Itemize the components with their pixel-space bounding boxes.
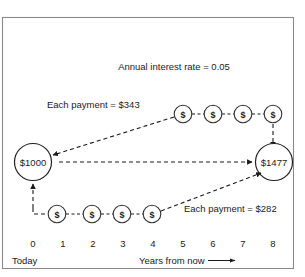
payment-symbol: $ [89,210,94,220]
axis-tick-0: 0 [30,238,35,249]
lower-payment-node-year-3: $ [113,205,131,223]
payment-symbol: $ [210,110,215,120]
payment-symbol: $ [240,110,245,120]
axis-tick-3: 3 [120,238,125,249]
lower-payment-label: Each payment = $282 [184,203,277,214]
axis-tick-2: 2 [90,238,95,249]
payment-symbol: $ [149,210,154,220]
future-value-node: $1477 [256,144,293,181]
upper-payment-node-year-7: $ [234,105,252,123]
lower-payment-node-year-1: $ [48,205,66,223]
upper-payment-node-year-6: $ [204,105,222,123]
interest-rate-note: Annual interest rate = 0.05 [118,61,230,72]
upper-payment-label: Each payment = $343 [47,99,140,110]
upper-payment-node-year-8: $ [264,105,282,123]
future-value-label: $1477 [261,157,287,168]
lower-payment-node-year-2: $ [83,205,101,223]
payment-symbol: $ [54,210,59,220]
axis-tick-4: 4 [150,238,155,249]
figure-border [3,18,294,269]
payment-symbol: $ [119,210,124,220]
axis-tick-6: 6 [210,238,215,249]
payment-symbol: $ [180,110,185,120]
axis-label: Years from now [139,255,205,266]
axis-tick-7: 7 [240,238,245,249]
upper-payment-node-year-5: $ [174,105,192,123]
cash-flow-diagram: Annual interest rate = 0.05 $ $ $ $ Each… [0,0,305,277]
lower-payment-node-year-4: $ [143,205,161,223]
present-value-label: $1000 [20,157,46,168]
axis-tick-1: 1 [60,238,65,249]
payment-symbol: $ [270,110,275,120]
axis-tick-5: 5 [180,238,185,249]
today-label: Today [12,255,38,266]
axis-tick-8: 8 [270,238,275,249]
present-value-node: $1000 [15,144,52,181]
